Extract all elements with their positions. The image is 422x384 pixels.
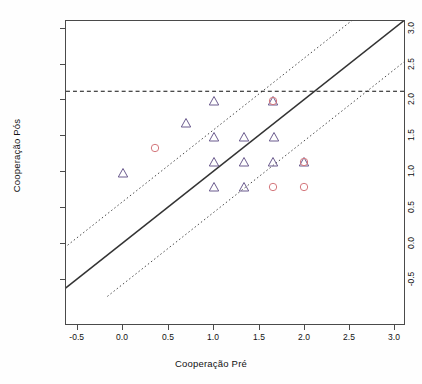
- x-tick-mark-0.5: [168, 325, 169, 330]
- data-point-triangle: [208, 131, 219, 142]
- data-point-circle: [149, 142, 160, 153]
- lower-ci-line: [107, 53, 404, 297]
- x-tick-label-1.5: 1.5: [253, 332, 265, 342]
- y-axis-title: Cooperação Pós: [11, 96, 22, 216]
- y-tick-label-2.0: 2.0: [406, 88, 416, 110]
- data-point-triangle: [238, 131, 249, 142]
- data-point-triangle: [238, 182, 249, 193]
- scatter-plot: 3.0 2.5 2.0 1.5 1.0 0.5 0.0 -0.5 -0.5 0.…: [0, 0, 422, 384]
- data-point-triangle: [267, 156, 278, 167]
- data-point-circle: [267, 96, 278, 107]
- x-tick-label-2.5: 2.5: [343, 332, 355, 342]
- y-tick-label-0.5: 0.5: [406, 196, 416, 218]
- data-point-triangle: [118, 167, 129, 178]
- x-tick-mark-0.0: [122, 325, 123, 330]
- x-axis-title: Cooperação Pré: [0, 358, 422, 369]
- data-point-triangle: [208, 96, 219, 107]
- x-tick-label-0.0: 0.0: [116, 332, 128, 342]
- x-tick-mark--0.5: [77, 325, 78, 330]
- data-point-triangle: [181, 117, 192, 128]
- y-tick-label-3.0: 3.0: [406, 17, 416, 39]
- y-tick-label-1.5: 1.5: [406, 124, 416, 146]
- x-tick-mark-1.0: [213, 325, 214, 330]
- data-point-triangle: [238, 156, 249, 167]
- y-tick-label-2.5: 2.5: [406, 53, 416, 75]
- y-tick-label-1.0: 1.0: [406, 160, 416, 182]
- x-tick-label-1.0: 1.0: [207, 332, 219, 342]
- y-tick-label-0.0: 0.0: [406, 232, 416, 254]
- identity-line: [66, 21, 404, 296]
- x-tick-mark-2.5: [349, 325, 350, 330]
- data-point-circle: [299, 156, 310, 167]
- data-point-circle: [267, 182, 278, 193]
- x-tick-mark-2.0: [304, 325, 305, 330]
- data-point-triangle: [208, 156, 219, 167]
- x-tick-label--0.5: -0.5: [69, 332, 84, 342]
- plot-area: [65, 20, 405, 325]
- x-tick-label-0.5: 0.5: [162, 332, 174, 342]
- y-tick-label--0.5: -0.5: [406, 268, 416, 290]
- data-point-triangle: [208, 182, 219, 193]
- x-tick-label-2.0: 2.0: [298, 332, 310, 342]
- data-point-circle: [299, 182, 310, 193]
- x-tick-mark-3.0: [394, 325, 395, 330]
- data-point-triangle: [269, 131, 280, 142]
- x-tick-label-3.0: 3.0: [388, 332, 400, 342]
- x-tick-mark-1.5: [259, 325, 260, 330]
